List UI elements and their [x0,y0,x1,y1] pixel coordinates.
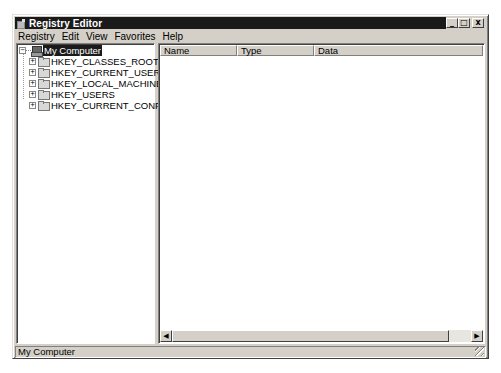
registry-tree-pane[interactable]: − My Computer + HKEY_CLASSES_ROOT + HKEY… [16,43,155,344]
collapse-icon[interactable]: − [19,47,26,54]
expand-icon[interactable]: + [29,102,36,109]
minimize-button[interactable]: _ [446,18,458,28]
tree-item-my-computer[interactable]: − My Computer [19,45,102,55]
folder-icon [38,68,49,76]
tree-item-hkey-local-machine[interactable]: + HKEY_LOCAL_MACHINE [29,78,162,88]
column-header-row: Name Type Data [160,45,483,56]
menu-registry[interactable]: Registry [15,31,59,42]
folder-icon [38,101,49,109]
window-title: Registry Editor [29,18,102,29]
menu-view[interactable]: View [83,31,112,42]
tree-item-label[interactable]: HKEY_USERS [51,89,115,100]
tree-item-hkey-classes-root[interactable]: + HKEY_CLASSES_ROOT [29,56,159,66]
menu-bar: Registry Edit View Favorites Help [15,30,486,42]
status-text: My Computer [18,346,75,357]
column-header-data[interactable]: Data [314,45,483,56]
folder-icon [38,90,49,98]
registry-editor-window: Registry Editor _ □ x Registry Edit View… [12,14,489,359]
scroll-thumb[interactable] [172,330,449,342]
tree-connector-line [23,54,24,99]
title-bar[interactable]: Registry Editor _ □ x [15,17,486,29]
computer-icon [31,46,42,55]
column-header-name[interactable]: Name [160,45,237,56]
values-list-pane[interactable]: Name Type Data ◀ ▶ [158,43,485,344]
scroll-right-button[interactable]: ▶ [471,330,483,342]
tree-item-label[interactable]: HKEY_CLASSES_ROOT [51,56,159,67]
folder-icon [38,79,49,87]
expand-icon[interactable]: + [29,69,36,76]
tree-item-label[interactable]: HKEY_CURRENT_USER [51,67,160,78]
tree-item-hkey-current-config[interactable]: + HKEY_CURRENT_CONFIG [29,100,171,110]
expand-icon[interactable]: + [29,80,36,87]
menu-help[interactable]: Help [160,31,188,42]
column-header-type[interactable]: Type [237,45,314,56]
registry-editor-icon [17,19,27,28]
tree-item-hkey-users[interactable]: + HKEY_USERS [29,89,115,99]
tree-item-label[interactable]: My Computer [43,45,102,56]
window-controls: _ □ x [446,18,484,28]
horizontal-scrollbar[interactable]: ◀ ▶ [160,330,483,342]
tree-item-hkey-current-user[interactable]: + HKEY_CURRENT_USER [29,67,160,77]
resize-grip-icon[interactable] [475,347,484,356]
status-bar: My Computer [15,346,486,358]
close-button[interactable]: x [472,18,484,28]
expand-icon[interactable]: + [29,58,36,65]
maximize-button[interactable]: □ [458,18,470,28]
tree-item-label[interactable]: HKEY_LOCAL_MACHINE [51,78,162,89]
expand-icon[interactable]: + [29,91,36,98]
tree-item-label[interactable]: HKEY_CURRENT_CONFIG [51,100,171,111]
menu-edit[interactable]: Edit [59,31,83,42]
folder-icon [38,57,49,65]
scroll-left-button[interactable]: ◀ [160,330,172,342]
menu-favorites[interactable]: Favorites [111,31,159,42]
